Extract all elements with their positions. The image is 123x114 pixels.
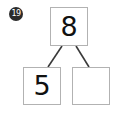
connector-line-left bbox=[48, 46, 62, 67]
part-left-number-value: 5 bbox=[33, 72, 50, 99]
connector-line-right bbox=[76, 46, 89, 67]
number-bond-worksheet: 19 8 5 bbox=[0, 0, 123, 114]
whole-number-value: 8 bbox=[60, 13, 77, 40]
whole-number-box[interactable]: 8 bbox=[50, 7, 88, 46]
part-right-number-box[interactable] bbox=[72, 67, 110, 105]
part-left-number-box[interactable]: 5 bbox=[23, 67, 61, 105]
